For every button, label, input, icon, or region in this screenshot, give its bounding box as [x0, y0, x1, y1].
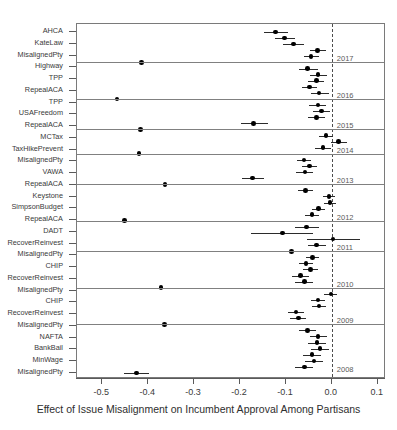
- x-tick-mark: [239, 378, 240, 384]
- estimate-point[interactable]: [298, 273, 303, 278]
- estimate-point[interactable]: [291, 42, 296, 47]
- y-tick-label-repealaca: RepealACA: [25, 215, 63, 222]
- x-axis-title: Effect of Issue Misalignment on Incumben…: [0, 403, 397, 415]
- y-tick-label-ahca: AHCA: [43, 27, 63, 34]
- estimate-point[interactable]: [321, 145, 326, 150]
- estimate-point[interactable]: [310, 212, 315, 217]
- y-tick-mark: [69, 55, 76, 56]
- x-tick-mark: [193, 378, 194, 384]
- y-tick-mark: [69, 360, 76, 361]
- estimate-point[interactable]: [303, 188, 308, 193]
- x-tick-label--0.2: -0.2: [231, 387, 247, 397]
- estimate-point[interactable]: [327, 194, 332, 199]
- y-tick-label-keystone: Keystone: [33, 192, 63, 199]
- y-tick-label-simpsonbudget: SimpsonBudget: [11, 204, 63, 211]
- y-tick-mark: [69, 278, 76, 279]
- estimate-point[interactable]: [304, 261, 309, 266]
- estimate-point[interactable]: [310, 255, 315, 260]
- y-tick-label-misalignedpty: MisalignedPty: [18, 251, 63, 258]
- estimate-point[interactable]: [307, 164, 312, 169]
- y-tick-mark: [69, 301, 76, 302]
- estimate-point[interactable]: [324, 133, 329, 138]
- estimate-point[interactable]: [307, 85, 312, 90]
- y-tick-label-tpp: TPP: [49, 74, 63, 81]
- year-label-2011: 2011: [337, 243, 353, 252]
- estimate-point[interactable]: [316, 334, 321, 339]
- estimate-point[interactable]: [302, 365, 307, 370]
- x-tick-label-0.0: 0.0: [325, 387, 338, 397]
- year-label-2008: 2008: [337, 365, 354, 374]
- y-tick-mark: [69, 348, 76, 349]
- estimate-point[interactable]: [302, 279, 307, 284]
- estimate-point[interactable]: [314, 115, 319, 120]
- estimate-point[interactable]: [280, 231, 285, 236]
- y-tick-mark: [69, 266, 76, 267]
- year-label-2016: 2016: [337, 91, 354, 100]
- y-tick-mark: [69, 137, 76, 138]
- y-tick-mark: [69, 337, 76, 338]
- y-tick-mark: [69, 125, 76, 126]
- figure-root: 2017201620152014201320122011201020092008…: [0, 0, 397, 430]
- estimate-point[interactable]: [318, 346, 323, 351]
- estimate-point[interactable]: [134, 371, 139, 376]
- y-tick-label-katelaw: KateLaw: [35, 39, 63, 46]
- y-tick-mark: [69, 313, 76, 314]
- estimate-point[interactable]: [302, 158, 307, 163]
- estimate-point[interactable]: [251, 121, 256, 126]
- y-tick-label-misalignedpty: MisalignedPty: [18, 51, 63, 58]
- estimate-point[interactable]: [303, 170, 308, 175]
- estimate-point[interactable]: [316, 72, 321, 77]
- estimate-point[interactable]: [336, 139, 341, 144]
- estimate-point[interactable]: [282, 36, 287, 41]
- estimate-point[interactable]: [296, 316, 301, 321]
- year-label-2013: 2013: [337, 176, 354, 185]
- y-tick-label-vawa: VAWA: [43, 168, 63, 175]
- y-tick-mark: [69, 149, 76, 150]
- estimate-point[interactable]: [304, 225, 309, 230]
- y-tick-label-recoverreinvest: RecoverReinvest: [7, 274, 63, 281]
- estimate-point[interactable]: [317, 91, 322, 96]
- x-tick-mark: [377, 378, 378, 384]
- estimate-point[interactable]: [250, 176, 255, 181]
- estimate-point[interactable]: [316, 103, 321, 108]
- estimate-point[interactable]: [317, 304, 322, 309]
- estimate-point[interactable]: [328, 200, 333, 205]
- y-tick-mark: [69, 172, 76, 173]
- estimate-point[interactable]: [312, 359, 317, 364]
- year-label-2017: 2017: [337, 54, 354, 63]
- y-tick-label-repealaca: RepealACA: [25, 86, 63, 93]
- x-tick-mark: [331, 378, 332, 384]
- x-tick-label--0.3: -0.3: [185, 387, 201, 397]
- estimate-point[interactable]: [309, 54, 314, 59]
- estimate-point[interactable]: [310, 352, 315, 357]
- estimate-point[interactable]: [316, 206, 321, 211]
- y-tick-mark: [69, 372, 76, 373]
- y-tick-mark: [69, 207, 76, 208]
- y-tick-mark: [69, 113, 76, 114]
- estimate-point[interactable]: [315, 48, 320, 53]
- x-tick-mark: [101, 378, 102, 384]
- estimate-point[interactable]: [308, 267, 313, 272]
- y-tick-label-minwage: MinWage: [32, 357, 63, 364]
- estimate-point[interactable]: [315, 340, 320, 345]
- y-tick-label-mctax: MCTax: [40, 133, 63, 140]
- estimate-point[interactable]: [294, 310, 299, 315]
- estimate-point[interactable]: [305, 328, 310, 333]
- estimate-point[interactable]: [273, 30, 278, 35]
- y-tick-label-misalignedpty: MisalignedPty: [18, 157, 63, 164]
- estimate-point[interactable]: [316, 298, 321, 303]
- y-tick-label-recoverreinvest: RecoverReinvest: [7, 310, 63, 317]
- x-tick-mark: [285, 378, 286, 384]
- y-tick-label-chip: CHIP: [46, 263, 63, 270]
- y-tick-label-repealaca: RepealACA: [25, 180, 63, 187]
- y-tick-label-dadt: DADT: [43, 227, 63, 234]
- estimate-point[interactable]: [314, 243, 319, 248]
- year-label-2012: 2012: [337, 213, 354, 222]
- estimate-point[interactable]: [331, 237, 336, 242]
- estimate-point[interactable]: [305, 66, 310, 71]
- year-label-2015: 2015: [337, 121, 354, 130]
- y-tick-label-highway: Highway: [35, 63, 63, 70]
- y-tick-mark: [69, 90, 76, 91]
- estimate-point[interactable]: [319, 109, 324, 114]
- estimate-point[interactable]: [314, 78, 319, 83]
